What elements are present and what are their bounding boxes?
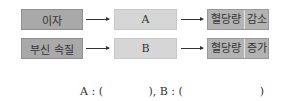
arrow-icon	[181, 19, 203, 20]
cause-box-pancreas: 이자	[21, 9, 83, 30]
hormone-box-b: B	[114, 38, 177, 59]
arrow-icon	[181, 48, 203, 49]
cause-box-adrenal-medulla: 부신 속질	[21, 38, 83, 59]
result-box-decrease: 혈당량 감소	[207, 9, 269, 30]
result-label-change: 증가	[245, 39, 268, 58]
hormone-box-a: A	[114, 9, 177, 30]
result-label-blood-sugar: 혈당량	[208, 10, 245, 29]
arrow-icon	[86, 48, 109, 49]
result-label-change: 감소	[245, 10, 268, 29]
result-label-blood-sugar: 혈당량	[208, 39, 245, 58]
result-box-increase: 혈당량 증가	[207, 38, 269, 59]
answer-blank-line: A : ( ), B : ( )	[80, 85, 264, 98]
arrow-icon	[86, 19, 109, 20]
